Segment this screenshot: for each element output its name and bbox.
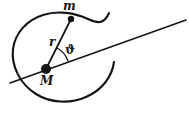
radius-label: r: [49, 36, 55, 48]
central-mass-point: [41, 64, 51, 74]
orbiting-mass-point: [68, 16, 74, 22]
orbiting-mass-label: m: [63, 0, 76, 12]
spiral-trajectory-path: [13, 12, 114, 101]
spiral-orbit-figure: m M r ϑ: [0, 0, 189, 114]
angle-label: ϑ: [65, 44, 75, 56]
reference-axis-line: [10, 20, 186, 83]
figure-canvas: [0, 0, 189, 114]
central-mass-label: M: [40, 75, 53, 87]
